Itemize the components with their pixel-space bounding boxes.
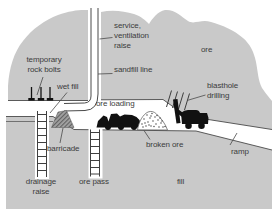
label-ore-loading: ore loading — [96, 99, 135, 109]
label-broken-ore: broken ore — [146, 140, 183, 150]
label-sandfill-line: sandfill line — [114, 65, 152, 75]
label-ramp: ramp — [231, 147, 249, 157]
label-ore-pass: ore pass — [79, 177, 109, 187]
label-barricade: barricade — [47, 144, 79, 154]
barricade-icon — [52, 111, 75, 128]
broken-ore-pile-icon — [138, 111, 168, 130]
label-ore: ore — [201, 45, 212, 55]
rock-bolts-icon — [28, 87, 53, 101]
ore-pass-ladder-icon — [89, 128, 103, 179]
label-fill: fill — [177, 177, 184, 187]
label-service-ventilation-raise: service, ventilation raise — [114, 21, 149, 51]
label-blasthole-drilling: blasthole drilling — [207, 81, 238, 101]
label-wet-fill: wet fill — [57, 82, 78, 92]
label-drainage-raise: drainage raise — [17, 177, 65, 197]
mining-diagram: temporary rock bolts wet fill service, v… — [0, 0, 274, 220]
lhd-loader-icon — [97, 114, 141, 130]
leader-sandfill — [98, 74, 113, 75]
label-temporary-rock-bolts: temporary rock bolts — [19, 55, 69, 75]
